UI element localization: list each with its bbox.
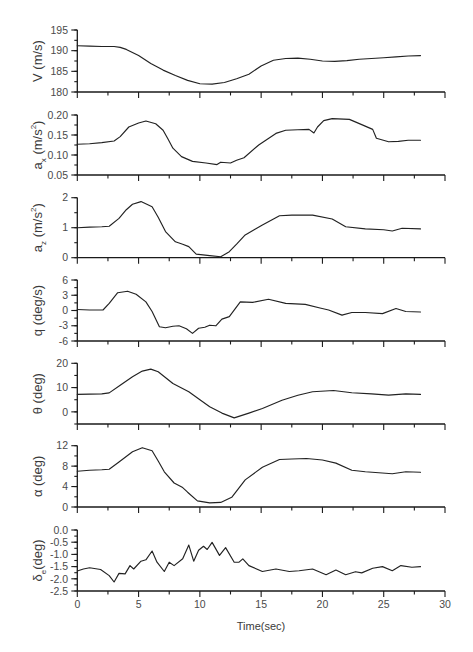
y-tick-label: 190 — [50, 44, 68, 56]
y-axis-label: δe​(deg) — [30, 539, 48, 581]
panel-6: -2.5-2.0-1.5-1.0-0.50.0δe​(deg) — [30, 524, 445, 597]
y-tick-label: -1.5 — [50, 560, 68, 572]
y-tick-label: 0.20 — [48, 109, 69, 121]
y-tick-label: 0 — [62, 251, 68, 263]
y-tick-label: 185 — [50, 65, 68, 77]
series-line — [77, 119, 420, 165]
panel-4: 01020θ (deg) — [30, 357, 445, 430]
y-tick-label: 6 — [62, 274, 68, 286]
y-tick-label: 2 — [62, 191, 68, 203]
y-tick-label: -0.5 — [50, 536, 68, 548]
x-tick-label: 25 — [378, 598, 390, 610]
y-tick-label: 12 — [56, 439, 68, 451]
y-tick-label: -2.0 — [50, 573, 68, 585]
y-tick-label: -1.0 — [50, 548, 68, 560]
panel-5: 04812α (deg) — [30, 439, 445, 513]
y-axis-label: az​ (m/s2​) — [29, 203, 48, 252]
series-line — [77, 369, 420, 418]
y-tick-label: -3 — [59, 319, 68, 331]
y-tick-label: 0.0 — [53, 524, 68, 536]
stacked-line-charts: 180185190195V (m/s)0.050.100.150.20ax​ (… — [0, 0, 473, 652]
flight-data-figure: 180185190195V (m/s)0.050.100.150.20ax​ (… — [0, 0, 473, 652]
y-axis-label: q (deg/s) — [30, 285, 45, 336]
x-tick-label: 30 — [439, 598, 451, 610]
y-tick-label: 4 — [62, 480, 68, 492]
y-axis-label: V (m/s) — [30, 40, 45, 82]
y-tick-label: -2.5 — [50, 585, 68, 597]
x-tick-label: 15 — [255, 598, 267, 610]
series-line — [77, 542, 420, 582]
x-axis-tick-labels: 051015202530 — [74, 598, 451, 610]
chart-panels: 180185190195V (m/s)0.050.100.150.20ax​ (… — [29, 24, 445, 597]
y-tick-label: 0.15 — [48, 129, 69, 141]
y-tick-label: 195 — [50, 24, 68, 36]
y-tick-label: 0 — [62, 406, 68, 418]
y-tick-label: 0 — [62, 304, 68, 316]
y-tick-label: 10 — [56, 381, 68, 393]
series-line — [77, 46, 420, 84]
series-line — [77, 202, 420, 257]
y-tick-label: 180 — [50, 86, 68, 98]
x-tick-label: 10 — [194, 598, 206, 610]
y-tick-label: 0.05 — [48, 169, 69, 181]
y-tick-label: 0.10 — [48, 149, 69, 161]
series-line — [77, 291, 420, 333]
y-axis-label: ax​ (m/s2​) — [29, 121, 48, 170]
y-tick-label: 8 — [62, 460, 68, 472]
y-tick-label: 1 — [62, 221, 68, 233]
y-axis-label: θ (deg) — [30, 373, 45, 414]
y-tick-label: -6 — [59, 335, 68, 347]
y-axis-label: α (deg) — [30, 456, 45, 497]
y-tick-label: 3 — [62, 289, 68, 301]
panel-2: 012az​ (m/s2​) — [29, 191, 445, 263]
x-tick-label: 20 — [317, 598, 329, 610]
y-tick-label: 0 — [62, 501, 68, 513]
x-tick-label: 0 — [74, 598, 80, 610]
series-line — [77, 448, 420, 503]
y-tick-label: 20 — [56, 357, 68, 369]
panel-0: 180185190195V (m/s) — [30, 24, 445, 98]
x-tick-label: 5 — [136, 598, 142, 610]
panel-3: -6-3036q (deg/s) — [30, 274, 445, 347]
x-axis-title: Time(sec) — [237, 620, 285, 632]
panel-1: 0.050.100.150.20ax​ (m/s2​) — [29, 109, 445, 181]
